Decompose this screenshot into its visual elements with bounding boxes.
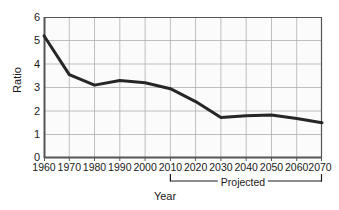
- ratio-line-chart: Ratio 6 5 4 3 2 1 0: [0, 0, 339, 210]
- plot-area: [0, 0, 339, 210]
- x-axis-title: Year: [154, 190, 176, 202]
- x-tick-label-2060: 2060: [285, 161, 308, 173]
- x-tick-label-2070: 2070: [308, 161, 331, 173]
- x-tick-label-2030: 2030: [209, 161, 232, 173]
- x-tick-label-2020: 2020: [184, 161, 207, 173]
- x-tick-label-2050: 2050: [260, 161, 283, 173]
- x-tick-label-2010: 2010: [159, 161, 182, 173]
- x-tick-label-1970: 1970: [58, 161, 81, 173]
- x-tick-label-1980: 1980: [83, 161, 106, 173]
- projected-annotation-label: Projected: [218, 176, 268, 188]
- x-tick-label-2000: 2000: [133, 161, 156, 173]
- x-tick-label-2040: 2040: [235, 161, 258, 173]
- x-tick-label-1960: 1960: [32, 161, 55, 173]
- x-axis-tick-labels: 1960 1970 1980 1990 2000 2010 2020 2030 …: [0, 161, 339, 175]
- x-tick-label-1990: 1990: [108, 161, 131, 173]
